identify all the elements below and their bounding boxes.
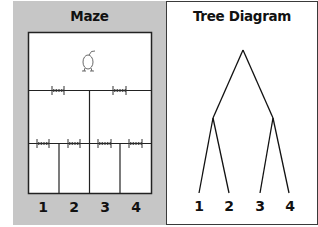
maze: [29, 33, 152, 194]
maze-goal-4: 4: [131, 199, 141, 215]
maze-goal-1: 1: [38, 199, 48, 215]
tree-diagram: [199, 50, 289, 193]
maze-goal-3: 3: [100, 199, 110, 215]
maze-goal-2: 2: [69, 199, 79, 215]
tree-leaf-3: 3: [255, 198, 265, 214]
tree-leaf-1: 1: [194, 198, 204, 214]
tree-leaf-2: 2: [224, 198, 234, 214]
diagram-canvas: 1 2 3 4 1 2 3 4: [0, 0, 318, 227]
tree-leaf-4: 4: [285, 198, 295, 214]
